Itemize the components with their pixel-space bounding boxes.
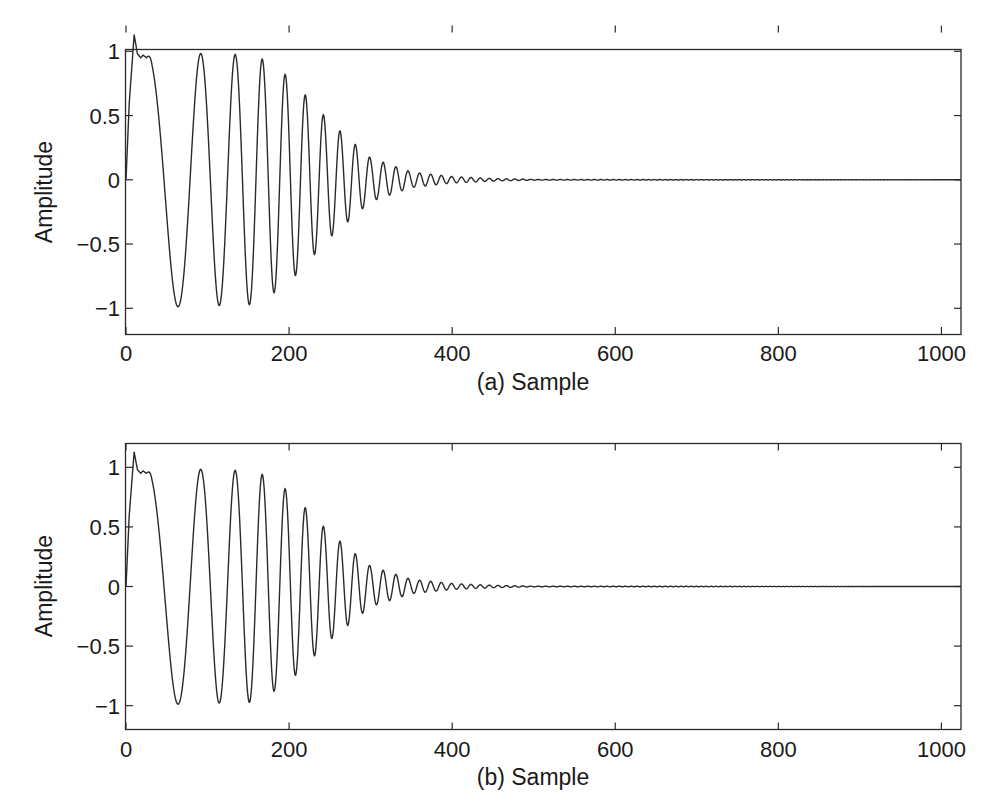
- x-tick-label: 800: [760, 737, 797, 762]
- plot-area-b: 02004006008001000 10.50−0.5−1: [77, 444, 966, 762]
- x-ticks-a: 02004006008001000: [120, 26, 966, 366]
- x-tick-label: 0: [120, 341, 132, 366]
- x-ticks-b: 02004006008001000: [120, 444, 966, 762]
- y-tick-label: 0: [108, 168, 120, 193]
- x-axis-label-a: (a) Sample: [477, 369, 589, 395]
- x-axis-label-b: (b) Sample: [477, 764, 589, 790]
- y-tick-label: −0.5: [77, 634, 120, 659]
- plot-area-a: 02004006008001000 10.50−0.5−1: [77, 26, 966, 366]
- x-tick-label: 600: [597, 341, 634, 366]
- y-tick-label: −1: [95, 694, 120, 719]
- x-tick-label: 1000: [917, 341, 966, 366]
- x-tick-label: 1000: [917, 737, 966, 762]
- x-tick-label: 400: [434, 737, 471, 762]
- x-tick-label: 0: [120, 737, 132, 762]
- y-tick-label: 0: [108, 575, 120, 600]
- series-line-b: [126, 452, 961, 704]
- x-tick-label: 400: [434, 341, 471, 366]
- chart-panel-b: 02004006008001000 10.50−0.5−1 Amplitude …: [0, 394, 991, 807]
- y-tick-label: −1: [95, 296, 120, 321]
- y-axis-label-b: Amplitude: [31, 535, 57, 637]
- x-tick-label: 600: [597, 737, 634, 762]
- y-axis-label-a: Amplitude: [31, 141, 57, 243]
- x-tick-label: 800: [760, 341, 797, 366]
- x-tick-label: 200: [271, 737, 308, 762]
- chart-panel-a: 02004006008001000 10.50−0.5−1 Amplitude …: [0, 0, 991, 400]
- line-chart-a: 02004006008001000 10.50−0.5−1 Amplitude …: [0, 0, 991, 400]
- y-tick-label: 1: [108, 455, 120, 480]
- y-tick-label: 1: [108, 39, 120, 64]
- y-tick-label: 0.5: [89, 515, 120, 540]
- line-chart-b: 02004006008001000 10.50−0.5−1 Amplitude …: [0, 394, 991, 807]
- y-tick-label: 0.5: [89, 104, 120, 129]
- x-tick-label: 200: [271, 341, 308, 366]
- y-tick-label: −0.5: [77, 232, 120, 257]
- series-line-a: [126, 35, 961, 307]
